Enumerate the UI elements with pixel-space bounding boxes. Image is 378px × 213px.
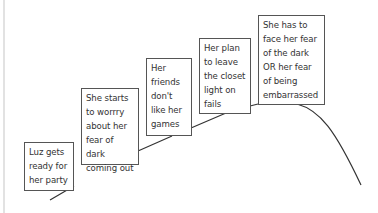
event-box-4: Her plan to leave the closet light on fa…	[199, 38, 251, 114]
event-box-3: Her friends don't like her games	[146, 58, 192, 136]
event-box-2: She starts to worrry about her fear of d…	[81, 88, 139, 165]
event-box-1: Luz gets ready for her party	[24, 142, 74, 191]
event-box-5-climax: She has to face her fear of the dark OR …	[258, 15, 325, 105]
